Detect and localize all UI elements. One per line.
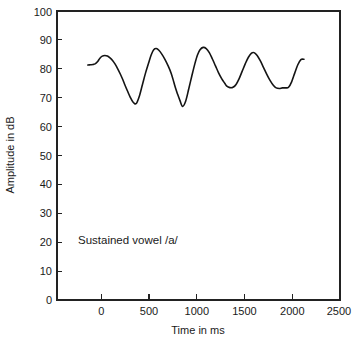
y-tick-label-70: 70 [40,92,52,104]
x-tick-label-0: 0 [98,305,104,317]
y-tick-label-50: 50 [40,150,52,162]
y-axis-title: Amplitude in dB [4,116,16,193]
x-tick-label-1500: 1500 [232,305,256,317]
plot-annotation-label: Sustained vowel /a/ [78,234,179,246]
y-axis-ticks [57,11,62,300]
x-tick-label-2500: 2500 [327,305,351,317]
chart-canvas: 0 10 20 30 40 50 60 70 80 90 100 0 500 1… [0,0,357,349]
x-tick-label-2000: 2000 [280,305,304,317]
y-axis-tick-labels: 0 10 20 30 40 50 60 70 80 90 100 [34,6,52,307]
y-tick-label-10: 10 [40,265,52,277]
y-tick-label-20: 20 [40,236,52,248]
y-tick-label-100: 100 [34,6,52,18]
y-tick-label-80: 80 [40,63,52,75]
x-axis-ticks [101,294,340,300]
y-tick-label-0: 0 [46,294,52,306]
x-axis-tick-labels: 0 500 1000 1500 2000 2500 [98,305,351,317]
x-tick-label-1000: 1000 [185,305,209,317]
chart-figure: 0 10 20 30 40 50 60 70 80 90 100 0 500 1… [0,0,357,349]
y-tick-label-30: 30 [40,207,52,219]
x-axis-title: Time in ms [171,324,225,336]
series-line-sustained-vowel-a [88,47,304,106]
y-tick-label-40: 40 [40,178,52,190]
y-tick-label-60: 60 [40,121,52,133]
y-tick-label-90: 90 [40,34,52,46]
x-tick-label-500: 500 [140,305,158,317]
